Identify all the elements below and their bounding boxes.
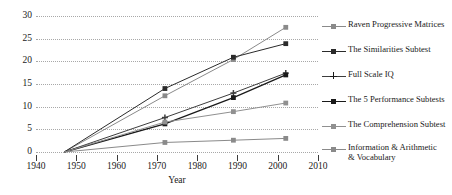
legend-swatch-icon (322, 46, 346, 56)
marker-square (231, 95, 236, 100)
y-tick-label: 15 (23, 79, 33, 89)
y-tick-label: 30 (23, 11, 33, 21)
legend-square-icon (331, 24, 336, 29)
x-tick-label: 1940 (27, 162, 46, 172)
y-tick-label: 20 (23, 57, 33, 67)
legend-item[interactable]: The Comprehension Subtest (322, 120, 445, 131)
marker-square (231, 55, 236, 60)
legend-item[interactable]: The Similarities Subtest (322, 45, 431, 56)
marker-square (283, 101, 288, 106)
legend-label: The Similarities Subtest (348, 45, 431, 55)
series-line (64, 73, 286, 152)
legend-swatch-icon (322, 21, 346, 31)
legend-label: Full Scale IQ (348, 70, 394, 80)
legend-label: The Comprehension Subtest (348, 120, 445, 130)
marker-square (283, 25, 288, 30)
marker-square (283, 136, 288, 141)
legend-swatch-icon (322, 144, 346, 154)
series-line (64, 44, 286, 152)
legend-square-icon (331, 147, 336, 152)
x-tick-label: 1960 (107, 162, 126, 172)
marker-square (231, 138, 236, 143)
legend-swatch-icon (322, 71, 346, 81)
legend-item[interactable]: Raven Progressive Matrices (322, 20, 444, 31)
x-tick-label: 1970 (147, 162, 166, 172)
marker-square (163, 93, 168, 98)
x-tick-label: 1990 (228, 162, 247, 172)
legend-label: The 5 Performance Subtests (348, 95, 445, 105)
y-tick-label: 0 (27, 147, 32, 157)
y-tick-label: 25 (23, 34, 33, 44)
marker-square (163, 120, 168, 125)
marker-square (163, 86, 168, 91)
line-chart: 051015202530 194019501960197019801990200… (0, 0, 452, 195)
x-tick-label: 1980 (188, 162, 207, 172)
marker-square (283, 73, 288, 78)
legend-swatch-icon (322, 121, 346, 131)
series-1 (64, 41, 288, 152)
y-tick-label: 10 (23, 102, 33, 112)
legend-item[interactable]: Full Scale IQ (322, 70, 394, 81)
series-5 (64, 136, 288, 152)
legend-item[interactable]: Information & Arithmetic & Vocabulary (322, 143, 437, 162)
legend-cross-icon (333, 72, 334, 79)
x-tick-label: 2010 (309, 162, 328, 172)
plot-area: 051015202530 (36, 16, 318, 152)
legend-item[interactable]: The 5 Performance Subtests (322, 95, 445, 106)
marker-square (231, 109, 236, 114)
marker-square (163, 140, 168, 145)
legend-swatch-icon (322, 96, 346, 106)
legend-square-icon (331, 99, 336, 104)
legend-square-icon (331, 124, 336, 129)
x-tick-label: 2000 (268, 162, 287, 172)
series-4 (64, 101, 288, 152)
x-axis-title: Year (36, 176, 318, 186)
legend-square-icon (331, 49, 336, 54)
gridline (36, 152, 318, 153)
x-tick-label: 1950 (67, 162, 86, 172)
legend-label: Information & Arithmetic & Vocabulary (348, 143, 437, 162)
series-lines (36, 16, 318, 152)
legend-label: Raven Progressive Matrices (348, 20, 444, 30)
y-tick-label: 5 (27, 125, 32, 135)
series-line (64, 103, 286, 152)
marker-square (283, 41, 288, 46)
